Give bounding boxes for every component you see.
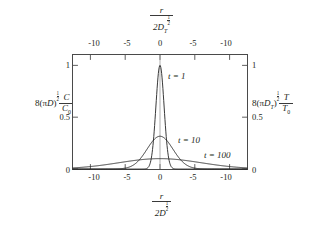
bottom-axis-den-prefix: 2D	[155, 208, 166, 218]
bottom-axis-denominator: 2D12	[152, 201, 172, 218]
left-tick-label-0: 0	[48, 165, 70, 175]
top-axis-tick-labels: -10 -5 0 -5 -10	[72, 38, 248, 50]
right-axis-ratio-numerator: T	[279, 93, 293, 102]
bottom-axis-label-fraction: r 2D12	[152, 192, 172, 219]
bottom-tick-label-0: -10	[88, 172, 99, 182]
bottom-axis-exp-den: 2	[166, 206, 169, 212]
right-axis-ratio: TT0	[279, 93, 293, 114]
right-axis-ratio-denominator: T0	[279, 103, 293, 115]
right-axis-ratio-den-subscript: 0	[287, 109, 290, 115]
bottom-tick-label-4: -10	[220, 172, 231, 182]
bottom-axis-tick-labels: -10 -5 0 -5 -10	[72, 172, 248, 184]
right-axis-exponent: 12	[277, 91, 280, 102]
curve-annotation-t1: t = 1	[168, 72, 186, 81]
bottom-tick-label-1: -5	[123, 172, 130, 182]
right-tick-label-0: 0	[252, 165, 274, 175]
top-tick-label-0: -10	[88, 38, 99, 48]
top-axis-den-subscript: T	[164, 28, 167, 34]
top-axis-denominator: 2DT12	[150, 15, 173, 34]
top-axis-exp-den: 2	[167, 20, 170, 26]
curve-annotation-t10: t = 10	[178, 136, 200, 145]
right-tick-label-0-5: 0.5	[252, 112, 274, 122]
right-tick-label-1: 1	[252, 60, 274, 70]
top-axis-label-fraction: r 2DT12	[150, 6, 173, 34]
left-axis-tick-labels: 0 0.5 1	[48, 54, 70, 170]
top-axis-exp-num: 1	[167, 15, 170, 20]
top-tick-label-1: -5	[123, 38, 130, 48]
top-tick-label-3: -5	[189, 38, 196, 48]
diffusion-profile-figure: r 2DT12 -10 -5 0 -5 -10 8(πD)12CC0 8(πDT…	[0, 0, 323, 229]
left-axis-coefficient: 8(	[35, 98, 43, 108]
top-axis-numerator: r	[150, 6, 173, 15]
top-axis-den-prefix: 2D	[153, 22, 164, 32]
left-tick-label-0-5: 0.5	[48, 112, 70, 122]
right-axis-exp-num: 1	[277, 91, 280, 96]
bottom-axis-label: r 2D12	[0, 192, 323, 219]
bottom-axis-den-exponent: 12	[166, 201, 169, 212]
left-tick-label-1: 1	[48, 60, 70, 70]
bottom-tick-label-3: -5	[189, 172, 196, 182]
top-tick-label-2: 0	[158, 38, 162, 48]
top-axis-den-exponent: 12	[167, 15, 170, 26]
right-axis-exp-den: 2	[277, 96, 280, 102]
top-tick-label-4: -10	[220, 38, 231, 48]
bottom-axis-exp-num: 1	[166, 201, 169, 206]
bottom-tick-label-2: 0	[158, 172, 162, 182]
bottom-axis-numerator: r	[152, 192, 172, 201]
right-axis-tick-labels: 0 0.5 1	[252, 54, 274, 170]
curve-annotation-t100: t = 100	[204, 151, 231, 160]
top-axis-label: r 2DT12	[0, 6, 323, 34]
